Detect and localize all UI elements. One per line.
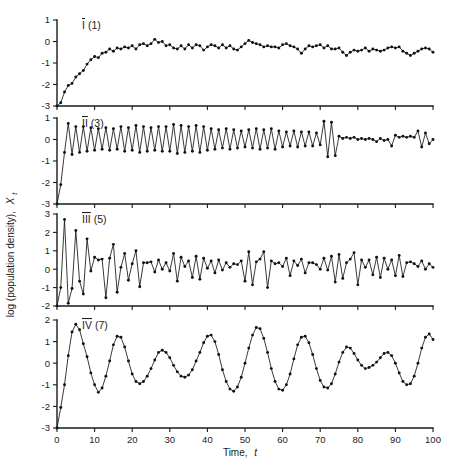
series-data-point bbox=[165, 351, 168, 354]
series-data-point bbox=[221, 368, 224, 371]
series-data-point bbox=[413, 136, 416, 139]
series-data-point bbox=[338, 361, 341, 364]
series-data-point bbox=[180, 375, 183, 378]
series-data-point bbox=[428, 333, 431, 336]
series-data-point bbox=[386, 268, 389, 271]
series-data-point bbox=[195, 43, 198, 46]
series-data-point bbox=[56, 427, 59, 430]
panel-title: III(5) bbox=[82, 213, 107, 225]
panel-parameter: (1) bbox=[88, 19, 101, 31]
series-data-point bbox=[183, 265, 186, 268]
series-data-point bbox=[334, 154, 337, 157]
series-data-point bbox=[420, 48, 423, 51]
series-data-point bbox=[131, 262, 134, 265]
series-data-point bbox=[401, 50, 404, 53]
series-data-point bbox=[398, 371, 401, 374]
series-data-point bbox=[368, 366, 371, 369]
series-data-point bbox=[330, 48, 333, 51]
panel-roman-numeral: III bbox=[82, 213, 91, 225]
x-tick-label: 70 bbox=[315, 434, 326, 445]
series-data-point bbox=[198, 151, 201, 154]
series-data-point bbox=[71, 330, 74, 333]
series-data-point bbox=[251, 334, 254, 337]
x-tick-label: 90 bbox=[390, 434, 401, 445]
series-data-point bbox=[112, 243, 115, 246]
x-axis-title-group: Time, t bbox=[223, 447, 258, 458]
series-data-point bbox=[277, 129, 280, 132]
series-data-point bbox=[375, 49, 378, 52]
series-data-point bbox=[119, 48, 122, 51]
series-data-point bbox=[424, 268, 427, 271]
series-data-point bbox=[195, 124, 198, 127]
series-data-point bbox=[323, 120, 326, 123]
series-data-point bbox=[135, 249, 138, 252]
series-data-point bbox=[300, 52, 303, 55]
series-data-point bbox=[300, 258, 303, 261]
series-data-point bbox=[157, 41, 160, 44]
series-data-point bbox=[244, 280, 247, 283]
series-data-point bbox=[379, 137, 382, 140]
series-data-point bbox=[338, 253, 341, 256]
series-data-point bbox=[356, 138, 359, 141]
series-data-point bbox=[183, 376, 186, 379]
series-data-point bbox=[398, 136, 401, 139]
series-data-point bbox=[360, 137, 363, 140]
series-data-point bbox=[172, 123, 175, 126]
series-data-point bbox=[296, 48, 299, 51]
series-data-point bbox=[112, 343, 115, 346]
series-data-point bbox=[409, 382, 412, 385]
series-data-point bbox=[142, 380, 145, 383]
series-data-point bbox=[270, 127, 273, 130]
series-data-point bbox=[116, 335, 119, 338]
series-data-point bbox=[390, 259, 393, 262]
series-data-point bbox=[428, 48, 431, 51]
series-data-point bbox=[364, 47, 367, 50]
series-data-point bbox=[150, 367, 153, 370]
series-data-point bbox=[326, 44, 329, 47]
series-data-point bbox=[409, 135, 412, 138]
series-data-point bbox=[71, 287, 74, 290]
series-data-point bbox=[161, 349, 164, 352]
series-data-point bbox=[379, 356, 382, 359]
series-data-point bbox=[281, 43, 284, 46]
x-tick-label: 0 bbox=[54, 434, 59, 445]
series-data-point bbox=[255, 326, 258, 329]
series-data-point bbox=[281, 389, 284, 392]
series-data-point bbox=[74, 229, 77, 232]
series-data-point bbox=[183, 151, 186, 154]
series-data-point bbox=[131, 373, 134, 376]
series-data-point bbox=[289, 44, 292, 47]
series-line bbox=[57, 121, 433, 204]
series-data-point bbox=[356, 283, 359, 286]
series-data-point bbox=[292, 357, 295, 360]
series-data-point bbox=[360, 364, 363, 367]
panel-parameter: (3) bbox=[91, 117, 104, 129]
series-data-point bbox=[116, 291, 119, 294]
series-data-point bbox=[82, 342, 85, 345]
series-data-point bbox=[176, 152, 179, 155]
y-axis-title-subscript: t bbox=[10, 192, 19, 195]
series-data-point bbox=[59, 406, 62, 409]
series-data-point bbox=[187, 43, 190, 46]
series-data-point bbox=[360, 49, 363, 52]
series-data-point bbox=[292, 129, 295, 132]
series-data-point bbox=[225, 261, 228, 264]
series-data-point bbox=[247, 250, 250, 253]
series-data-point bbox=[326, 387, 329, 390]
series-data-point bbox=[180, 44, 183, 47]
series-data-point bbox=[240, 376, 243, 379]
series-data-point bbox=[150, 260, 153, 263]
series-data-point bbox=[379, 50, 382, 53]
series-data-point bbox=[296, 146, 299, 149]
series-data-point bbox=[78, 72, 81, 75]
series-data-point bbox=[142, 125, 145, 128]
series-data-point bbox=[135, 124, 138, 127]
series-data-point bbox=[104, 296, 107, 299]
series-data-point bbox=[409, 260, 412, 263]
series-data-point bbox=[74, 76, 77, 79]
series-data-point bbox=[266, 351, 269, 354]
series-data-point bbox=[116, 148, 119, 151]
y-tick-label: 1 bbox=[45, 245, 50, 256]
series-data-point bbox=[417, 362, 420, 365]
series-data-point bbox=[161, 40, 164, 43]
